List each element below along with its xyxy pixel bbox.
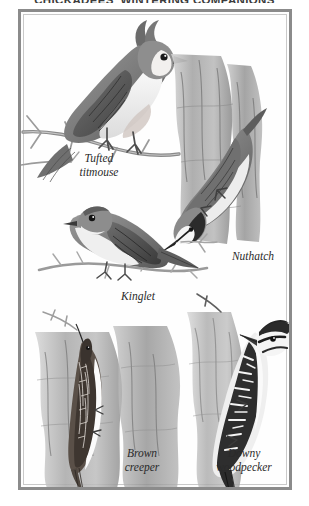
bird-plate: CHICKADEES' WINTERING COMPANIONS xyxy=(0,0,309,506)
label-kinglet: Kinglet xyxy=(104,290,172,304)
label-brown-creeper: Brown creeper xyxy=(104,447,180,474)
label-tufted-titmouse: Tufted titmouse xyxy=(60,152,138,179)
label-nuthatch: Nuthatch xyxy=(213,250,293,264)
label-downy-woodpecker: Downy woodpecker xyxy=(196,447,292,474)
plate-title: CHICKADEES' WINTERING COMPANIONS xyxy=(0,0,309,3)
